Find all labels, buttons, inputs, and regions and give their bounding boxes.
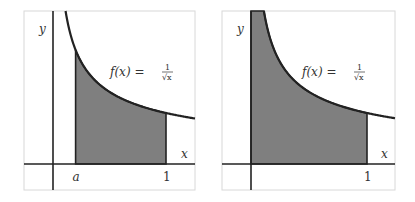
function-label-numerator: 1 bbox=[165, 63, 170, 72]
function-label-denominator: √x bbox=[162, 73, 172, 82]
function-label-numerator: 1 bbox=[357, 63, 362, 72]
function-label: f(x) = bbox=[301, 65, 336, 79]
y-axis-label: y bbox=[236, 22, 244, 36]
figure: yxa1f(x) =1√x yx1f(x) =1√x bbox=[0, 0, 415, 202]
function-label: f(x) = bbox=[109, 65, 144, 79]
x-axis-label: x bbox=[381, 147, 388, 161]
panel-right: yx1f(x) =1√x bbox=[222, 11, 395, 190]
panel-left: yxa1f(x) =1√x bbox=[24, 11, 195, 190]
x-tick-label: 1 bbox=[163, 170, 171, 184]
x-tick-label: 1 bbox=[364, 170, 372, 184]
x-tick-label: a bbox=[73, 170, 80, 184]
function-label-denominator: √x bbox=[354, 73, 364, 82]
y-axis-label: y bbox=[38, 22, 46, 36]
x-axis-label: x bbox=[181, 147, 188, 161]
